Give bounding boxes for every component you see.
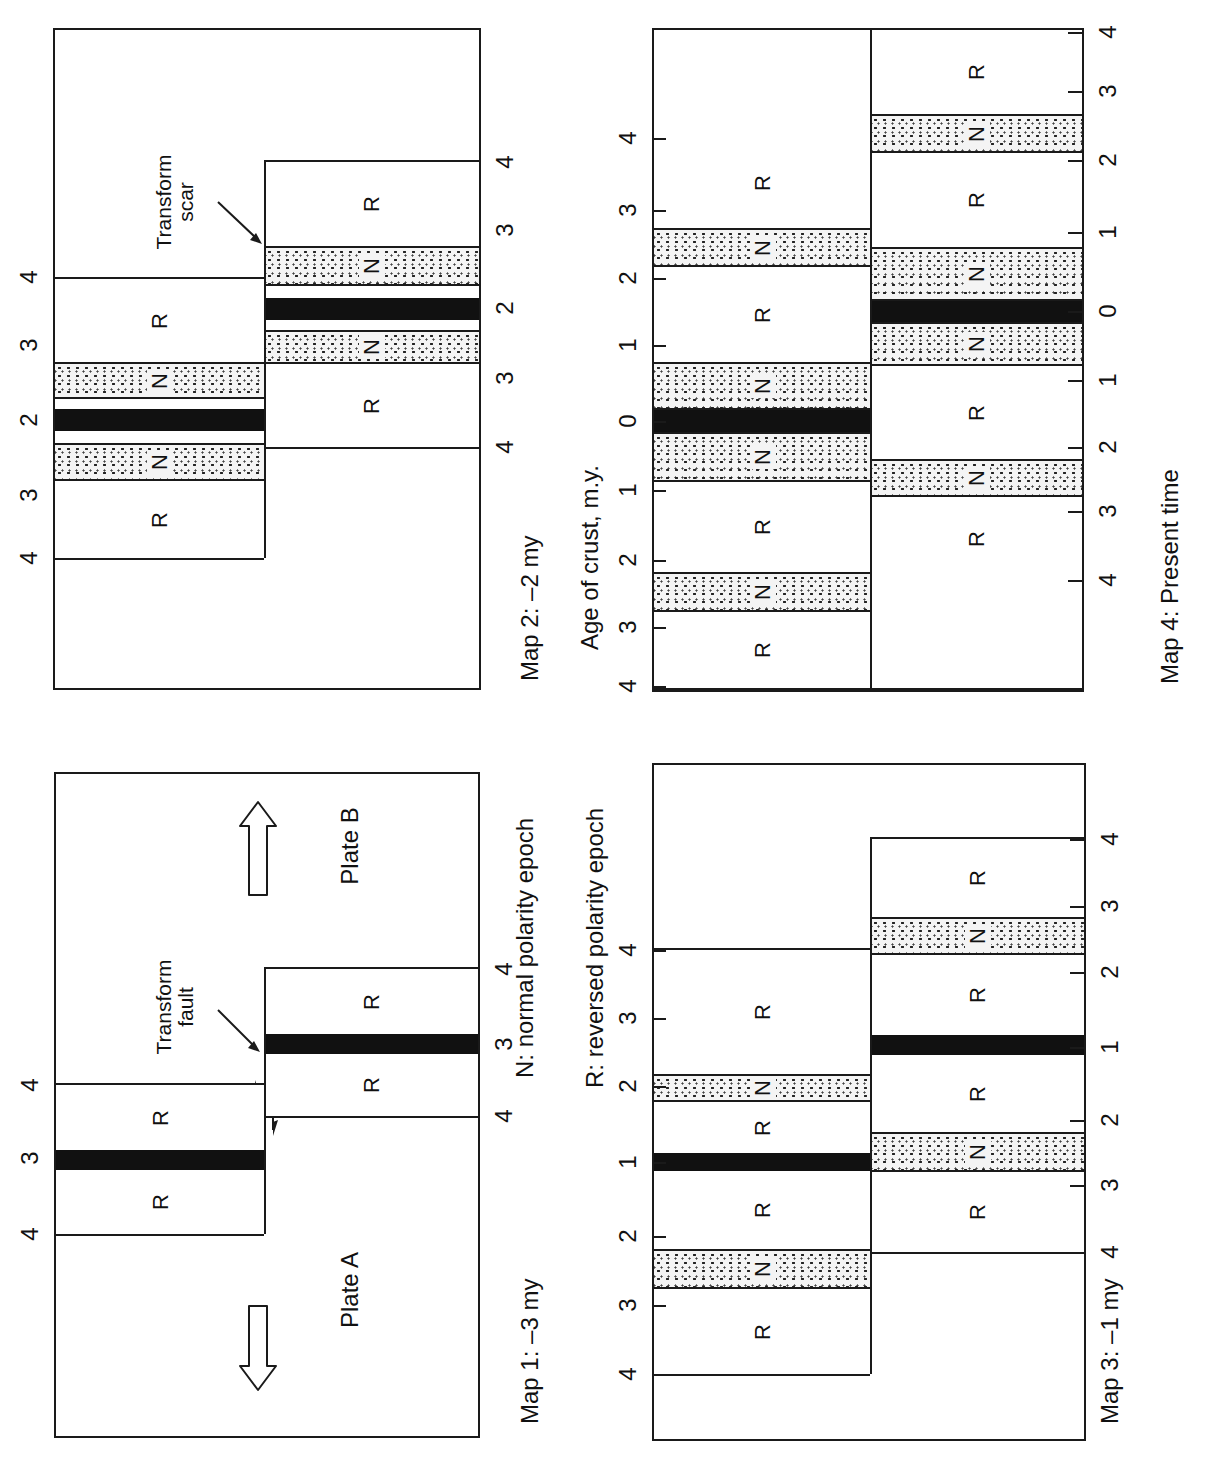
plate-boundary-line (870, 837, 1086, 839)
stripe-reversed (871, 581, 1082, 688)
plate-boundary-line (264, 447, 481, 449)
stripe-current-ridge (654, 410, 871, 432)
stripe-label-r: R (750, 1000, 776, 1024)
plate-boundary-line (264, 967, 480, 969)
stripe-label-n: N (750, 1076, 776, 1100)
age-tick-mark (652, 345, 666, 347)
legend-reversed-polarity: R: reversed polarity epoch (581, 768, 609, 1088)
age-tick-mark (652, 1018, 666, 1020)
age-tick-label: 2 (1094, 433, 1122, 461)
age-tick-label: 2 (1096, 958, 1124, 986)
age-tick-label: 2 (491, 294, 519, 322)
stripe-label-r: R (965, 866, 991, 890)
plate-boundary-line (54, 1234, 264, 1236)
stripe-reversed (55, 431, 265, 443)
map-2-caption: Map 2: –2 my (516, 541, 544, 681)
age-tick-label: 1 (1094, 218, 1122, 246)
stripe-reversed (55, 399, 265, 409)
age-tick-mark (1068, 380, 1082, 382)
stripe-label-n: N (147, 369, 173, 393)
stripe-reversed (654, 30, 871, 138)
plate-a-label: Plate A (336, 1240, 364, 1340)
stripe-label-n: N (750, 374, 776, 398)
stripe-label-n: N (965, 1140, 991, 1164)
stripe-current-ridge (871, 301, 1082, 322)
age-tick-mark (652, 627, 666, 629)
age-tick-label: 0 (1094, 297, 1122, 325)
stripe-label-n: N (750, 580, 776, 604)
plate-boundary-line (264, 160, 481, 162)
age-tick-mark (1070, 1120, 1084, 1122)
age-tick-label: 4 (614, 124, 642, 152)
age-tick-mark (652, 560, 666, 562)
age-tick-label: 2 (614, 1222, 642, 1250)
plate-b-label: Plate B (336, 796, 364, 896)
age-tick-label: 2 (614, 264, 642, 292)
stripe-label-r: R (964, 527, 990, 551)
age-tick-mark (1070, 1185, 1084, 1187)
stripe-label-n: N (750, 236, 776, 260)
stripe-label-r: R (359, 990, 385, 1014)
age-tick-label: 3 (1096, 892, 1124, 920)
age-tick-mark (1068, 511, 1082, 513)
age-tick-label: 3 (491, 216, 519, 244)
age-tick-label: 4 (1096, 1238, 1124, 1266)
stripe-label-r: R (965, 983, 991, 1007)
age-tick-label: 2 (1096, 1106, 1124, 1134)
age-tick-mark (652, 1086, 666, 1088)
age-tick-mark (1068, 580, 1082, 582)
stripe-label-r: R (750, 171, 776, 195)
age-tick-mark (1068, 91, 1082, 93)
age-tick-label: 3 (491, 364, 519, 392)
age-tick-label: 2 (15, 406, 43, 434)
map3-shear-arrows-icon (0, 0, 1, 1)
age-tick-mark (1068, 232, 1082, 234)
stripe-current-ridge (55, 409, 265, 431)
age-tick-label: 2 (1094, 146, 1122, 174)
age-tick-mark (1070, 1252, 1084, 1254)
age-tick-label: 3 (15, 331, 43, 359)
age-tick-label: 3 (1096, 1171, 1124, 1199)
age-tick-label: 3 (614, 1004, 642, 1032)
map-3-caption: Map 3: –1 my (1096, 1284, 1124, 1424)
axis-title-age-of-crust: Age of crust, m.y. (576, 450, 604, 650)
transform-fault-label: Transform fault (153, 947, 197, 1067)
stripe-reversed (265, 320, 479, 330)
stripe-label-n: N (964, 262, 990, 286)
plate-boundary-line (652, 28, 870, 30)
age-tick-mark (652, 421, 666, 423)
age-tick-label: 4 (490, 955, 518, 983)
plate-boundary-line (870, 1252, 1086, 1254)
plate-boundary-line (652, 948, 870, 950)
stripe-current-ridge (871, 1035, 1084, 1055)
plate-boundary-line (652, 1374, 870, 1376)
age-tick-label: 1 (1094, 366, 1122, 394)
age-tick-label: 0 (614, 407, 642, 435)
age-tick-mark (652, 490, 666, 492)
stripe-label-r: R (964, 401, 990, 425)
stripe-label-r: R (147, 508, 173, 532)
age-tick-mark (652, 278, 666, 280)
stripe-label-r: R (750, 638, 776, 662)
stripe-current-ridge (265, 298, 479, 320)
age-tick-label: 4 (614, 672, 642, 700)
age-tick-label: 3 (16, 1144, 44, 1172)
stripe-label-r: R (750, 1116, 776, 1140)
stripe-label-r: R (147, 309, 173, 333)
age-tick-label: 2 (614, 1072, 642, 1100)
stripe-label-r: R (148, 1106, 174, 1130)
stripe-label-n: N (359, 254, 385, 278)
age-tick-label: 4 (490, 1102, 518, 1130)
stripe-label-r: R (750, 1320, 776, 1344)
age-tick-label: 4 (614, 1360, 642, 1388)
stripe-label-r: R (750, 515, 776, 539)
transform-scar-label: Transform scar (153, 142, 197, 262)
age-tick-mark (1070, 1047, 1084, 1049)
age-tick-label: 3 (15, 481, 43, 509)
map-4-caption: Map 4: Present time (1156, 424, 1184, 684)
age-tick-label: 3 (490, 1030, 518, 1058)
age-tick-label: 4 (1094, 18, 1122, 46)
age-tick-label: 1 (614, 331, 642, 359)
age-tick-mark (652, 1236, 666, 1238)
age-tick-label: 4 (15, 263, 43, 291)
